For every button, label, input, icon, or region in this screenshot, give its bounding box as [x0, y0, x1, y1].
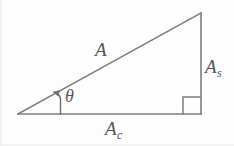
angle-arrow-shaft: [57, 93, 61, 114]
scan-edge-artifact-left: [0, 0, 2, 146]
vertical-side-label-sub: s: [217, 66, 222, 80]
vertical-side-label-base: A: [205, 56, 217, 77]
triangle-diagram-canvas: A As Ac θ: [0, 0, 234, 146]
hypotenuse-label: A: [95, 40, 107, 59]
horizontal-side-label: Ac: [105, 119, 122, 138]
scan-edge-artifact-bottom: [0, 144, 234, 146]
horizontal-side-label-base: A: [105, 118, 117, 139]
horizontal-side-label-sub: c: [117, 128, 122, 142]
angle-label-base: θ: [65, 86, 74, 106]
hypotenuse-label-base: A: [95, 39, 107, 60]
triangle-hypotenuse-line: [18, 13, 201, 114]
right-angle-marker-icon: [183, 97, 200, 114]
angle-label: θ: [65, 87, 74, 105]
vertical-side-label: As: [205, 57, 221, 76]
